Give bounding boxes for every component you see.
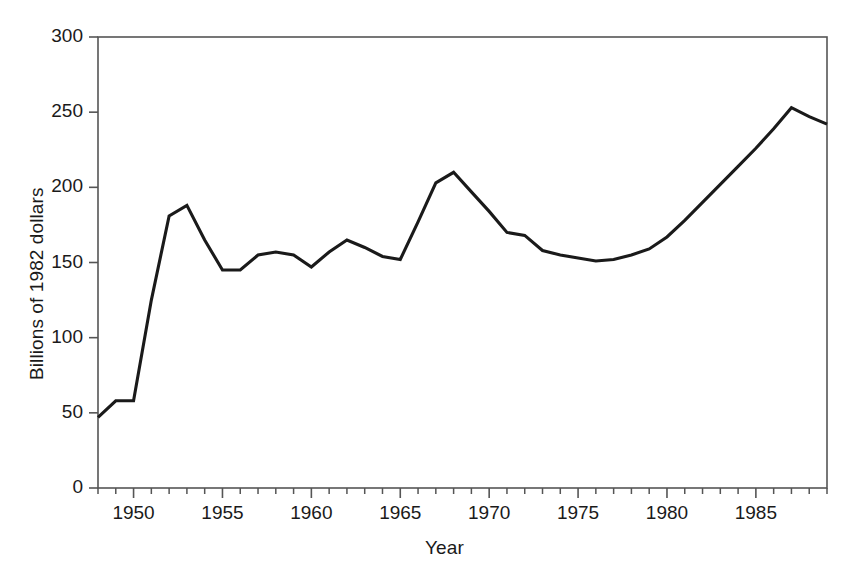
y-tick-label: 200: [0, 175, 83, 197]
x-tick-label: 1955: [182, 502, 262, 524]
x-tick-label: 1965: [360, 502, 440, 524]
x-tick-label: 1985: [716, 502, 796, 524]
x-axis-title-wrap: Year: [0, 537, 851, 559]
x-tick-label: 1960: [271, 502, 351, 524]
y-tick-label: 0: [0, 476, 83, 498]
x-tick-label: 1950: [94, 502, 174, 524]
x-tick-label: 1975: [538, 502, 618, 524]
plot-area: [0, 0, 851, 578]
x-axis-title: Year: [425, 537, 464, 559]
x-tick-label: 1980: [627, 502, 707, 524]
x-axis-major-ticks: [134, 488, 756, 498]
x-axis-minor-ticks: [98, 488, 827, 494]
y-tick-label: 250: [0, 100, 83, 122]
y-axis-title: Billions of 1982 dollars: [26, 187, 48, 380]
y-tick-label: 300: [0, 25, 83, 47]
line-chart: Billions of 1982 dollars Year 0501001502…: [0, 0, 851, 578]
y-tick-label: 150: [0, 251, 83, 273]
x-tick-label: 1970: [449, 502, 529, 524]
plot-frame: [98, 37, 827, 488]
y-tick-label: 50: [0, 401, 83, 423]
y-axis-ticks: [89, 37, 98, 488]
y-tick-label: 100: [0, 326, 83, 348]
